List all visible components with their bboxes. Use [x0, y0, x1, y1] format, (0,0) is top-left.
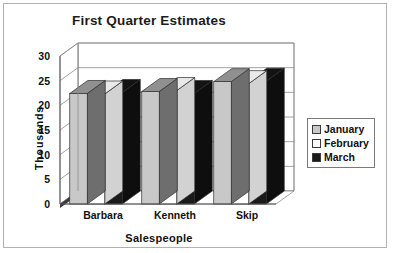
x-axis-tick-label: Skip [236, 209, 258, 221]
bar-side-face [249, 71, 267, 204]
bar-group-container [70, 68, 285, 204]
legend-item[interactable]: February [312, 136, 369, 150]
bar-front-face [70, 93, 88, 204]
bar-side-face [177, 78, 195, 204]
legend-swatch-icon [312, 153, 321, 162]
x-axis-tick-label: Kenneth [154, 209, 196, 221]
bar-side-face [105, 81, 123, 204]
bar-side-face [159, 79, 177, 204]
chart-frame: First Quarter Estimates Thousands Salesp… [3, 3, 387, 248]
bar-side-face [87, 80, 105, 204]
bar-group [214, 68, 285, 204]
legend-swatch-icon [312, 139, 321, 148]
bar-side-face [266, 68, 284, 204]
chart-legend: JanuaryFebruaryMarch [307, 118, 375, 168]
legend-swatch-icon [312, 125, 321, 134]
bar-group [142, 78, 213, 204]
bar-side-face [122, 80, 140, 204]
legend-item-label: March [324, 152, 355, 163]
x-axis-tick-label: Barbara [83, 209, 123, 221]
bar-group [70, 80, 141, 204]
legend-item-label: January [324, 124, 364, 135]
bar-front-face [214, 82, 232, 204]
bar-side-face [231, 69, 249, 204]
bar-side-face [194, 80, 212, 204]
legend-item[interactable]: January [312, 122, 369, 136]
bar-front-face [142, 92, 160, 204]
legend-item-label: February [324, 138, 369, 149]
legend-item[interactable]: March [312, 150, 369, 164]
